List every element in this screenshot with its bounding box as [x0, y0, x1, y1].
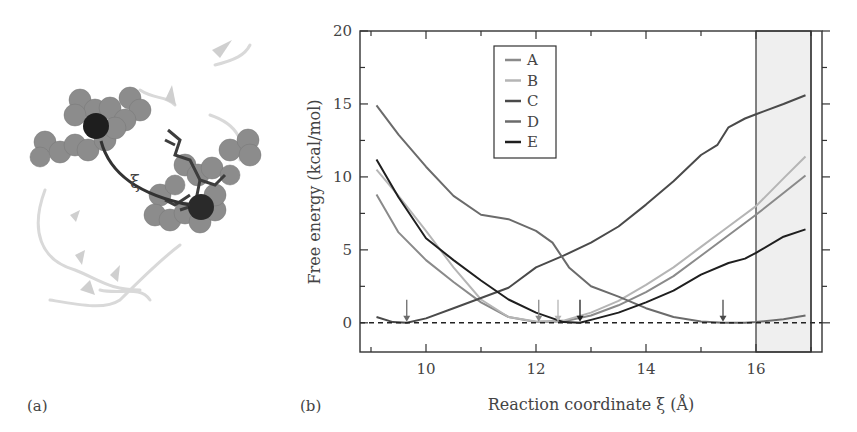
- minimum-arrow: [403, 300, 410, 322]
- x-tick-label: 10: [416, 360, 435, 378]
- y-tick-label: 5: [342, 241, 352, 259]
- plot-frame: [360, 31, 822, 352]
- x-axis-label: Reaction coordinate ξ (Å): [488, 394, 695, 414]
- svg-text:B: B: [527, 72, 538, 90]
- minimum-arrow: [720, 300, 727, 322]
- legend: ABCDE: [494, 46, 556, 158]
- y-axis-label: Free energy (kcal/mol): [305, 99, 324, 284]
- minimum-arrow: [535, 300, 542, 322]
- svg-text:D: D: [527, 113, 539, 131]
- svg-text:E: E: [527, 133, 538, 151]
- x-tick-label: 16: [746, 360, 765, 378]
- y-tick-label: 15: [333, 95, 352, 113]
- free-energy-chart: 1012141605101520 Free energy (kcal/mol) …: [0, 0, 857, 432]
- x-tick-label: 14: [636, 360, 655, 378]
- y-tick-label: 20: [333, 22, 352, 40]
- series-C-line: [377, 95, 806, 323]
- svg-text:C: C: [527, 92, 538, 110]
- shaded-region: [756, 31, 811, 352]
- series-D-line: [377, 105, 806, 322]
- x-tick-label: 12: [526, 360, 545, 378]
- y-tick-label: 10: [333, 168, 352, 186]
- series-layer: [377, 95, 806, 323]
- svg-text:A: A: [526, 51, 538, 69]
- y-tick-label: 0: [342, 314, 352, 332]
- legend-box: [494, 46, 556, 158]
